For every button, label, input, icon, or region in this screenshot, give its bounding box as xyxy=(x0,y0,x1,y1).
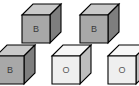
cube-icon: O xyxy=(50,43,94,86)
cube-top-face xyxy=(108,45,139,56)
cube-top-right: B xyxy=(78,2,122,46)
cube-scene: BBBOO xyxy=(0,0,139,86)
cube-label: O xyxy=(62,65,69,75)
cube-label: O xyxy=(118,65,125,75)
cube-bottom-middle: O xyxy=(50,43,94,86)
cube-icon: O xyxy=(106,43,139,86)
cube-bottom-right: O xyxy=(106,43,139,86)
cube-label: B xyxy=(33,24,39,34)
cube-icon: B xyxy=(20,2,64,46)
cube-bottom-left: B xyxy=(0,43,38,86)
cube-top-left: B xyxy=(20,2,64,46)
cube-icon: B xyxy=(0,43,38,86)
cube-label: B xyxy=(7,65,13,75)
cube-icon: B xyxy=(78,2,122,46)
cube-label: B xyxy=(91,24,97,34)
